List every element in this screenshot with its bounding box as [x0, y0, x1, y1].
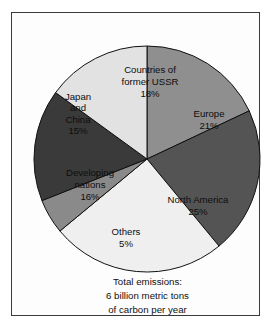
pie-chart-svg: Countries offormer USSR18%Europe21%North… — [12, 13, 273, 281]
caption-line-3: of carbon per year — [23, 303, 272, 317]
caption-line-1: Total emissions: — [23, 275, 272, 289]
chart-caption: Total emissions: 6 billion metric tons o… — [23, 275, 272, 318]
caption-line-2: 6 billion metric tons — [23, 289, 272, 303]
pie-chart: Countries offormer USSR18%Europe21%North… — [12, 13, 273, 281]
figure-frame: Countries offormer USSR18%Europe21%North… — [11, 12, 260, 316]
pie-slice-label: JapanandChina15% — [65, 91, 91, 137]
